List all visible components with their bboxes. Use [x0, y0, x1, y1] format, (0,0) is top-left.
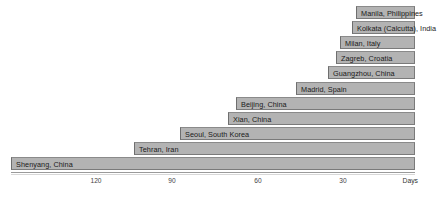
- bar[interactable]: Manila, Philippines: [356, 6, 415, 19]
- bar[interactable]: Madrid, Spain: [296, 82, 415, 95]
- bar-label: Manila, Philippines: [361, 8, 423, 19]
- bar-label: Beijing, China: [241, 99, 287, 110]
- x-axis-line: [11, 172, 415, 173]
- bar[interactable]: Seoul, South Korea: [180, 127, 415, 140]
- bar[interactable]: Zagreb, Croatia: [336, 51, 415, 64]
- x-tick-label: 120: [90, 177, 101, 184]
- bar-label: Seoul, South Korea: [185, 129, 249, 140]
- bar-label: Milan, Italy: [345, 38, 380, 49]
- bar-row[interactable]: Beijing, China: [0, 97, 441, 110]
- bar-row[interactable]: Seoul, South Korea: [0, 127, 441, 140]
- bar[interactable]: Tehran, Iran: [134, 142, 415, 155]
- bar-label: Kolkata (Calcutta), India: [357, 23, 436, 34]
- bar-label: Shenyang, China: [16, 159, 73, 170]
- x-axis-line-shadow: [11, 174, 415, 175]
- x-tick-label: 60: [254, 177, 261, 184]
- bar-row[interactable]: Kolkata (Calcutta), India: [0, 21, 441, 34]
- bar[interactable]: Shenyang, China: [11, 157, 415, 170]
- bar-label: Guangzhou, China: [333, 68, 395, 79]
- bar-label: Xian, China: [233, 114, 271, 125]
- x-axis-title: Days: [403, 177, 419, 184]
- bar-row[interactable]: Zagreb, Croatia: [0, 51, 441, 64]
- bar-row[interactable]: Guangzhou, China: [0, 66, 441, 79]
- bar-row[interactable]: Shenyang, China: [0, 157, 441, 170]
- bar[interactable]: Kolkata (Calcutta), India: [352, 21, 415, 34]
- bar-label: Zagreb, Croatia: [341, 53, 392, 64]
- bar[interactable]: Milan, Italy: [340, 36, 415, 49]
- bar[interactable]: Guangzhou, China: [328, 66, 415, 79]
- x-tick-label: 30: [339, 177, 346, 184]
- bar[interactable]: Beijing, China: [236, 97, 415, 110]
- bar-label: Tehran, Iran: [139, 144, 179, 155]
- x-tick-label: 90: [168, 177, 175, 184]
- bar-row[interactable]: Xian, China: [0, 112, 441, 125]
- bar-label: Madrid, Spain: [301, 84, 347, 95]
- bar-row[interactable]: Tehran, Iran: [0, 142, 441, 155]
- horizontal-bar-chart: Manila, PhilippinesKolkata (Calcutta), I…: [0, 0, 441, 197]
- bar-row[interactable]: Manila, Philippines: [0, 6, 441, 19]
- plot-area: Manila, PhilippinesKolkata (Calcutta), I…: [0, 6, 441, 172]
- bar-row[interactable]: Milan, Italy: [0, 36, 441, 49]
- bar[interactable]: Xian, China: [228, 112, 415, 125]
- bar-row[interactable]: Madrid, Spain: [0, 82, 441, 95]
